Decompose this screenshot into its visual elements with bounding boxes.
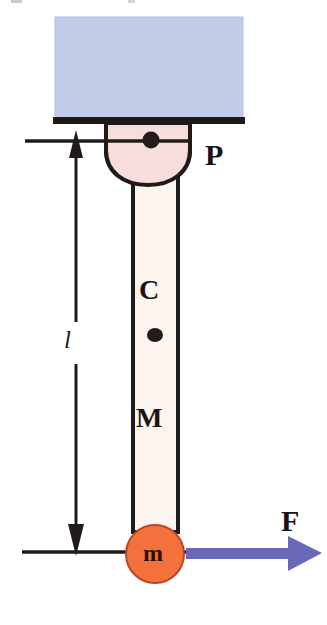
cropped-caption-artifacts	[11, 0, 135, 3]
physics-diagram-figure: P C M F m l	[0, 0, 327, 625]
center-of-mass-label: C	[139, 276, 159, 304]
force-arrowhead	[288, 536, 322, 571]
ceiling-block-body	[55, 17, 243, 118]
dimension-arrowhead-top	[69, 130, 83, 158]
force-arrow-shaft	[186, 548, 296, 559]
pivot-point-dot	[143, 132, 160, 149]
diagram-canvas	[0, 0, 327, 625]
ceiling-block	[55, 17, 243, 118]
support-bar-overlay	[53, 117, 245, 124]
pivot-label: P	[205, 140, 223, 170]
force-arrow	[186, 536, 322, 571]
rod-mass-label: M	[136, 404, 162, 432]
force-label: F	[281, 506, 299, 536]
length-label: l	[64, 327, 71, 352]
center-of-mass-marker	[147, 328, 163, 342]
point-mass-label: m	[143, 541, 163, 565]
center-of-mass-dot	[147, 328, 163, 342]
